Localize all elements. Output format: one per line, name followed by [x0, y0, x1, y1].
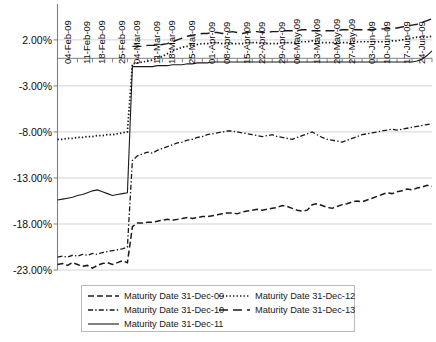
x-tick-label: 25-Mar-09	[186, 20, 197, 64]
x-tick-label: 18-Mar-09	[166, 20, 177, 64]
legend-line-swatch	[87, 319, 120, 329]
legend-item[interactable]: Maturity Date 31-Dec-09	[87, 289, 218, 303]
x-tick-label: 04-Feb-09	[62, 20, 73, 64]
legend-row: Maturity Date 31-Dec-11	[87, 317, 349, 331]
legend-line-swatch	[87, 291, 120, 301]
legend-line-swatch	[87, 305, 120, 315]
x-tick-label: 27-May-09	[346, 19, 357, 64]
x-tick-label: 29-Apr-09	[276, 22, 287, 64]
legend-label: Maturity Date 31-Dec-10	[124, 305, 224, 315]
legend-label: Maturity Date 31-Dec-12	[255, 291, 355, 301]
x-tick-label: 06-May-09	[291, 19, 302, 64]
legend-row: Maturity Date 31-Dec-10Maturity Date 31-…	[87, 303, 349, 317]
x-tick-label: 15-Apr-09	[241, 22, 252, 64]
chart-legend: Maturity Date 31-Dec-09Maturity Date 31-…	[81, 285, 355, 332]
x-tick-label: 11-Feb-09	[81, 21, 92, 64]
legend-label: Maturity Date 31-Dec-13	[255, 305, 355, 315]
legend-line-swatch	[218, 305, 251, 315]
legend-label: Maturity Date 31-Dec-09	[124, 291, 224, 301]
legend-line-swatch	[218, 291, 251, 301]
x-tick-label: 10-Jun-09	[381, 22, 392, 65]
x-tick-label: 04-Mar-09	[131, 20, 142, 64]
x-tick-label: 24-Jun-09	[416, 22, 427, 65]
x-tick-label: 18-Feb-09	[96, 20, 107, 64]
x-tick-label: 20-May-09	[331, 19, 342, 64]
x-tick-label: 03-Jun-09	[366, 22, 377, 65]
x-tick-label: 22-Apr-09	[256, 22, 267, 64]
x-tick-label: 25-Feb-09	[116, 20, 127, 64]
legend-item[interactable]: Maturity Date 31-Dec-12	[218, 289, 349, 303]
x-tick-label: 17-Jun-09	[401, 22, 412, 65]
legend-label: Maturity Date 31-Dec-11	[124, 319, 223, 329]
x-tick-label: 13-May-09	[311, 19, 322, 64]
legend-item[interactable]: Maturity Date 31-Dec-13	[218, 303, 349, 317]
legend-item[interactable]: Maturity Date 31-Dec-10	[87, 303, 218, 317]
x-tick-label: 08-Apr-09	[221, 22, 232, 64]
legend-row: Maturity Date 31-Dec-09Maturity Date 31-…	[87, 289, 349, 303]
x-tick-label: 11-Mar-09	[151, 21, 162, 64]
legend-item[interactable]: Maturity Date 31-Dec-11	[87, 317, 349, 331]
x-tick-label: 01-Apr-09	[206, 22, 217, 64]
chart-container: 2.00%-3.00%-8.00%-13.00%-18.00%-23.00% 0…	[0, 0, 436, 342]
